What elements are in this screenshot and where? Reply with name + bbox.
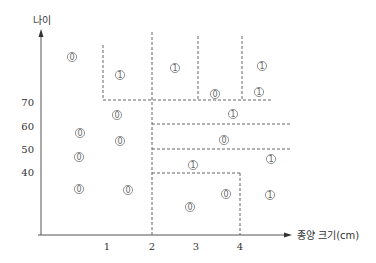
point-label: 0 [117, 137, 122, 146]
point-label: 1 [268, 155, 273, 164]
point-label: 1 [172, 64, 177, 73]
class-0-point: 0 [219, 135, 228, 145]
class-0-point: 0 [75, 128, 84, 138]
x-tick-4: 4 [237, 241, 243, 252]
y-tick-60: 60 [21, 121, 34, 132]
class-0-point: 0 [123, 185, 132, 195]
y-axis-arrow-icon [39, 29, 44, 37]
decision-boundary-diagram: 나이 종양 크기(cm) 1 2 3 4 70 60 50 40 0111011… [0, 0, 376, 263]
x-axis-arrow-icon [284, 233, 292, 238]
point-label: 0 [69, 53, 74, 62]
class-0-point: 0 [185, 202, 194, 212]
point-label: 0 [114, 111, 119, 120]
point-label: 1 [190, 161, 195, 170]
x-tick-2: 2 [149, 241, 155, 252]
class-1-point: 1 [188, 160, 197, 170]
point-label: 0 [125, 186, 130, 195]
class-0-point: 0 [221, 189, 230, 199]
point-label: 0 [187, 203, 192, 212]
class-0-point: 0 [115, 136, 124, 146]
point-label: 1 [117, 71, 122, 80]
class-1-point: 1 [265, 190, 274, 200]
y-tick-labels: 70 60 50 40 [21, 97, 34, 178]
point-label: 0 [212, 90, 217, 99]
x-tick-labels: 1 2 3 4 [104, 241, 243, 252]
point-label: 1 [256, 88, 261, 97]
y-tick-40: 40 [21, 167, 34, 178]
y-tick-50: 50 [21, 144, 34, 155]
point-label: 0 [223, 190, 228, 199]
class-1-point: 1 [115, 70, 124, 80]
point-label: 0 [76, 185, 81, 194]
point-label: 0 [77, 129, 82, 138]
class-0-point: 0 [112, 110, 121, 120]
x-tick-3: 3 [193, 241, 199, 252]
x-tick-1: 1 [104, 241, 110, 252]
point-label: 0 [76, 153, 81, 162]
x-axis-label: 종양 크기(cm) [297, 230, 359, 241]
data-points: 0111011000001100010 [67, 52, 275, 212]
class-1-point: 1 [257, 61, 266, 71]
y-axis-label: 나이 [33, 15, 51, 26]
y-tick-70: 70 [21, 97, 34, 108]
point-label: 1 [230, 110, 235, 119]
point-label: 1 [259, 62, 264, 71]
class-0-point: 0 [67, 52, 76, 62]
class-1-point: 1 [266, 154, 275, 164]
class-1-point: 1 [170, 63, 179, 73]
class-1-point: 1 [228, 109, 237, 119]
class-1-point: 1 [254, 87, 263, 97]
class-0-point: 0 [210, 89, 219, 99]
class-0-point: 0 [74, 184, 83, 194]
class-0-point: 0 [74, 152, 83, 162]
point-label: 0 [221, 136, 226, 145]
point-label: 1 [267, 191, 272, 200]
